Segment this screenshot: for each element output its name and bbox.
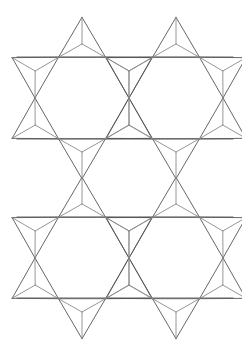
figure-root <box>0 0 242 352</box>
canvas-background <box>0 0 242 352</box>
hexagram-tessellation-svg <box>0 0 242 352</box>
